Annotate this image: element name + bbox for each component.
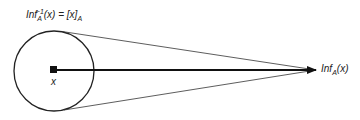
image-label: InfA(x) <box>321 64 348 76</box>
label-sub: A <box>37 15 42 22</box>
label-rest-sub: A <box>77 15 82 22</box>
inverse-image-label: InfA−1(x) = [x]A <box>26 8 82 22</box>
label-rest: (x) = [x] <box>44 9 78 20</box>
point-x-marker <box>50 66 57 73</box>
target-rest: (x) <box>337 63 349 74</box>
label-sup: −1 <box>36 8 44 15</box>
point-x-label: x <box>51 77 56 87</box>
target-base: Inf <box>321 63 332 74</box>
lower-tangent-line <box>64 70 316 110</box>
upper-tangent-line <box>62 32 316 71</box>
